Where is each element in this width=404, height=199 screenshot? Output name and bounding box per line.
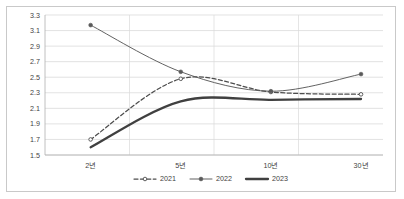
chart-legend: 202120222023 [134, 174, 288, 183]
legend-label-2022[interactable]: 2022 [216, 174, 232, 183]
y-tick-label: 2.7 [30, 57, 40, 66]
legend-label-2023[interactable]: 2023 [272, 174, 288, 183]
y-tick-label: 1.5 [30, 151, 40, 160]
chart-plot-area: 1.51.71.92.12.32.52.72.93.13.3 2년5년10년30… [7, 7, 395, 191]
data-point-marker-2021 [359, 93, 363, 97]
legend-marker-2022 [199, 177, 203, 181]
data-point-marker-2022 [89, 23, 93, 27]
data-point-marker-2021 [179, 77, 183, 81]
y-tick-label: 2.9 [30, 42, 40, 51]
chart-frame: 1.51.71.92.12.32.52.72.93.13.3 2년5년10년30… [6, 6, 396, 192]
data-point-marker-2022 [269, 89, 273, 93]
line-chart: 1.51.71.92.12.32.52.72.93.13.3 2년5년10년30… [7, 7, 397, 193]
legend-marker-2021 [143, 177, 147, 181]
data-point-marker-2022 [359, 72, 363, 76]
data-point-marker-2022 [179, 70, 183, 74]
x-tick-label: 10년 [263, 161, 278, 170]
y-tick-label: 2.3 [30, 88, 40, 97]
vertical-gridlines [130, 15, 299, 155]
data-series-layer [89, 23, 363, 147]
x-tick-label: 30년 [354, 161, 369, 170]
x-axis-tick-labels: 2년5년10년30년 [85, 161, 368, 170]
legend-label-2021[interactable]: 2021 [160, 174, 176, 183]
y-tick-label: 1.9 [30, 119, 40, 128]
y-tick-label: 2.5 [30, 73, 40, 82]
y-tick-label: 1.7 [30, 135, 40, 144]
y-tick-label: 3.1 [30, 26, 40, 35]
y-tick-label: 2.1 [30, 104, 40, 113]
x-tick-label: 5년 [175, 161, 186, 170]
y-axis-tick-labels: 1.51.71.92.12.32.52.72.93.13.3 [30, 11, 40, 160]
x-tick-label: 2년 [85, 161, 96, 170]
y-tick-label: 3.3 [30, 11, 40, 20]
data-point-marker-2021 [89, 138, 93, 142]
